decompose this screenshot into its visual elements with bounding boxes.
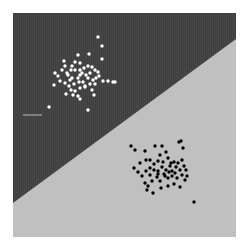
data-point bbox=[73, 60, 76, 63]
data-point bbox=[86, 64, 89, 67]
data-point bbox=[97, 74, 100, 77]
data-point bbox=[87, 52, 90, 55]
data-point bbox=[86, 108, 89, 111]
data-point bbox=[151, 191, 154, 194]
data-point bbox=[133, 148, 136, 151]
data-point bbox=[170, 174, 173, 177]
data-point bbox=[73, 89, 76, 92]
data-point bbox=[192, 200, 195, 203]
data-point bbox=[73, 68, 76, 71]
data-point bbox=[146, 184, 149, 187]
data-point bbox=[167, 170, 170, 173]
data-point bbox=[155, 175, 158, 178]
data-point bbox=[178, 168, 181, 171]
data-point bbox=[47, 105, 50, 108]
data-point bbox=[100, 57, 103, 60]
plot-area bbox=[13, 13, 236, 237]
data-point bbox=[140, 174, 143, 177]
data-point bbox=[152, 162, 155, 165]
data-point bbox=[156, 169, 159, 172]
data-point bbox=[93, 82, 96, 85]
data-point bbox=[143, 181, 146, 184]
data-point bbox=[148, 158, 151, 161]
data-point bbox=[96, 35, 99, 38]
data-point bbox=[78, 68, 81, 71]
data-point bbox=[92, 93, 95, 96]
data-point bbox=[180, 158, 183, 161]
data-point bbox=[156, 172, 159, 175]
data-point bbox=[132, 166, 135, 169]
data-point bbox=[148, 173, 151, 176]
data-point bbox=[80, 71, 83, 74]
data-point bbox=[160, 165, 163, 168]
data-point bbox=[69, 88, 72, 91]
data-point bbox=[166, 176, 169, 179]
data-point bbox=[93, 68, 96, 71]
data-point bbox=[90, 88, 93, 91]
data-point bbox=[90, 65, 93, 68]
data-point bbox=[164, 168, 167, 171]
scatter-chart bbox=[0, 0, 247, 249]
data-point bbox=[172, 160, 175, 163]
data-point bbox=[176, 161, 179, 164]
data-point bbox=[144, 158, 147, 161]
data-point bbox=[174, 165, 177, 168]
data-point bbox=[76, 53, 79, 56]
data-point bbox=[106, 79, 109, 82]
data-point bbox=[94, 76, 97, 79]
data-point bbox=[88, 71, 91, 74]
data-point bbox=[69, 68, 72, 71]
data-point bbox=[136, 170, 139, 173]
data-point bbox=[64, 92, 67, 95]
data-point bbox=[91, 78, 94, 81]
data-point bbox=[160, 144, 163, 147]
data-point bbox=[100, 44, 103, 47]
data-point bbox=[182, 164, 185, 167]
data-point bbox=[183, 178, 186, 181]
data-point bbox=[70, 76, 73, 79]
data-point bbox=[184, 168, 187, 171]
data-point bbox=[166, 184, 169, 187]
data-point bbox=[145, 188, 148, 191]
data-point bbox=[113, 80, 116, 83]
data-point bbox=[78, 86, 81, 89]
data-point bbox=[67, 84, 70, 87]
data-point bbox=[152, 168, 155, 171]
data-point bbox=[159, 186, 162, 189]
data-point bbox=[185, 174, 188, 177]
data-point bbox=[81, 80, 84, 83]
data-point bbox=[170, 169, 173, 172]
data-point bbox=[82, 66, 85, 69]
data-point bbox=[158, 153, 161, 156]
data-point bbox=[168, 164, 171, 167]
data-point bbox=[179, 139, 182, 142]
data-point bbox=[178, 185, 181, 188]
data-point bbox=[56, 74, 59, 77]
data-point bbox=[163, 174, 166, 177]
data-point bbox=[66, 73, 69, 76]
data-point bbox=[83, 85, 86, 88]
data-point bbox=[153, 144, 156, 147]
data-point bbox=[181, 146, 184, 149]
data-point bbox=[180, 173, 183, 176]
data-point bbox=[53, 71, 56, 74]
data-point bbox=[166, 156, 169, 159]
data-point bbox=[173, 171, 176, 174]
data-point bbox=[101, 79, 104, 82]
data-point bbox=[156, 159, 159, 162]
data-point bbox=[76, 94, 79, 97]
data-point bbox=[77, 80, 80, 83]
data-point bbox=[78, 61, 81, 64]
data-point bbox=[63, 64, 66, 67]
data-point bbox=[175, 176, 178, 179]
data-point bbox=[62, 59, 65, 62]
data-point bbox=[72, 82, 75, 85]
data-point bbox=[164, 150, 167, 153]
data-point bbox=[86, 76, 89, 79]
data-point bbox=[76, 76, 79, 79]
data-point bbox=[161, 160, 164, 163]
data-point bbox=[96, 70, 99, 73]
data-point bbox=[143, 149, 146, 152]
data-point bbox=[88, 82, 91, 85]
data-point bbox=[71, 93, 74, 96]
